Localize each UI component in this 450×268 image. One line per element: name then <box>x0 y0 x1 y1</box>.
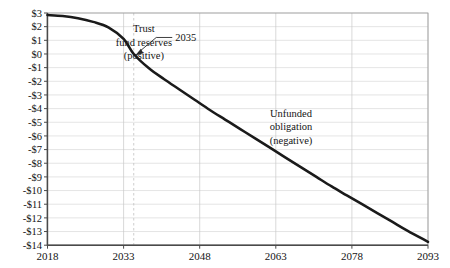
y-tick-label: -$4 <box>28 103 43 114</box>
y-tick-label: -$13 <box>23 226 42 237</box>
y-tick-label: -$8 <box>28 158 42 169</box>
y-tick-label: -$5 <box>28 117 42 128</box>
y-tick-label: -$7 <box>28 144 42 155</box>
annotation-year-label: 2035 <box>175 32 196 43</box>
y-tick-label: $3 <box>32 8 43 19</box>
chart-container: $3$2$1$0-$1-$2-$3-$4-$5-$6-$7-$8-$9-$10-… <box>0 0 450 268</box>
x-tick-label: 2018 <box>37 250 60 262</box>
x-tick-label: 2048 <box>189 250 212 262</box>
y-tick-label: $0 <box>32 49 43 60</box>
x-tick-label: 2078 <box>341 250 364 262</box>
annotation-line: (negative) <box>270 135 313 147</box>
x-tick-label: 2063 <box>265 250 288 262</box>
y-tick-label: -$6 <box>28 131 42 142</box>
y-tick-label: -$3 <box>28 90 42 101</box>
annotation-line: Trust <box>133 23 155 34</box>
annotation-unfunded-obligation: Unfundedobligation(negative) <box>270 108 313 147</box>
annotation-line: Unfunded <box>270 108 313 119</box>
y-axis-ticks: $3$2$1$0-$1-$2-$3-$4-$5-$6-$7-$8-$9-$10-… <box>23 8 48 251</box>
y-tick-label: -$9 <box>28 172 42 183</box>
x-tick-label: 2033 <box>113 250 136 262</box>
y-tick-label: $1 <box>32 35 43 46</box>
x-tick-label: 2093 <box>417 250 440 262</box>
annotation-line: (positive) <box>124 50 165 62</box>
y-tick-label: -$11 <box>23 199 42 210</box>
y-tick-label: -$1 <box>28 62 42 73</box>
y-tick-label: -$12 <box>23 213 42 224</box>
annotation-line: fund reserves <box>116 37 172 48</box>
x-axis-ticks: 201820332048206320782093 <box>37 245 440 262</box>
trust-fund-balance-line-chart: $3$2$1$0-$1-$2-$3-$4-$5-$6-$7-$8-$9-$10-… <box>0 0 450 268</box>
annotation-line: obligation <box>270 121 313 132</box>
y-tick-label: -$10 <box>23 185 42 196</box>
y-tick-label: $2 <box>32 21 43 32</box>
y-tick-label: -$2 <box>28 76 42 87</box>
